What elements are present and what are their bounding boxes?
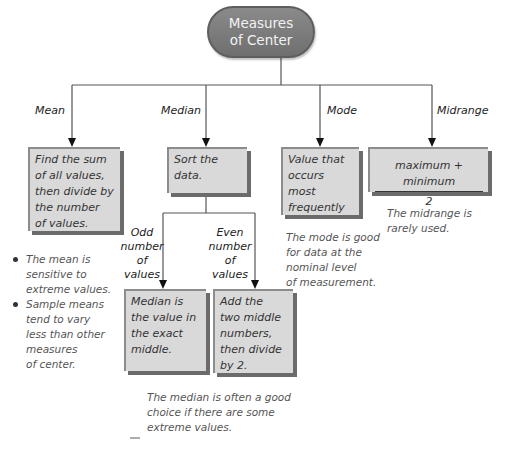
box-mean-definition: Find the sum of all values, then divide …: [28, 147, 120, 231]
note-line: less than other: [26, 327, 111, 342]
bullet-icon: [13, 257, 18, 262]
mean-note-item: The mean is sensitive to extreme values.: [10, 252, 111, 297]
even-box-line: numbers,: [220, 326, 288, 342]
even-label-line: of: [208, 254, 252, 268]
box-median-odd: Median is the value in the exact middle.: [124, 289, 206, 371]
median-box-line: data.: [174, 168, 242, 184]
odd-box-line: the value in: [131, 310, 201, 326]
root-line-2: of Center: [209, 32, 313, 49]
root-line-1: Measures: [209, 15, 313, 32]
mean-box-line: the number: [35, 200, 115, 216]
arrow-even-icon: [251, 280, 259, 289]
note-line: nominal level: [286, 260, 380, 275]
note-mode: The mode is good for data at the nominal…: [286, 230, 380, 290]
note-line: The mean is: [26, 252, 111, 267]
midrange-numerator: maximum + minimum: [375, 158, 483, 192]
note-line: Sample means: [26, 297, 111, 312]
mode-box-line: frequently: [288, 200, 354, 216]
even-box-line: by 2.: [220, 358, 288, 374]
label-median: Median: [161, 104, 201, 117]
even-box-line: Add the: [220, 294, 288, 310]
even-label-line: values: [208, 268, 252, 282]
note-midrange: The midrange is rarely used.: [387, 206, 472, 236]
mean-box-line: of all values,: [35, 168, 115, 184]
arrow-mean-icon: [68, 138, 76, 147]
mode-box-line: Value that: [288, 152, 354, 168]
mean-box-line: Find the sum: [35, 152, 115, 168]
note-line: rarely used.: [387, 221, 472, 236]
note-line: The midrange is: [387, 206, 472, 221]
label-mode: Mode: [327, 104, 357, 117]
note-line: of measurement.: [286, 275, 380, 290]
even-label-line: number: [208, 240, 252, 254]
note-line: for data at the: [286, 245, 380, 260]
note-line: The median is often a good: [147, 390, 291, 405]
root-node-measures-of-center: Measures of Center: [207, 6, 315, 58]
mean-box-line: of values.: [35, 216, 115, 232]
note-line: of center.: [26, 357, 111, 372]
mean-note-item: Sample means tend to vary less than othe…: [10, 297, 111, 372]
note-line: measures: [26, 342, 111, 357]
even-box-line: then divide: [220, 342, 288, 358]
mean-notes-list: The mean is sensitive to extreme values.…: [10, 252, 111, 372]
note-line: tend to vary: [26, 312, 111, 327]
note-line: extreme values.: [26, 282, 111, 297]
arrow-mode-icon: [316, 138, 324, 147]
arrow-median-icon: [202, 138, 210, 147]
note-line: extreme values.: [147, 420, 291, 435]
odd-box-line: the exact: [131, 326, 201, 342]
odd-label-line: number: [120, 240, 164, 254]
box-midrange-formula: maximum + minimum 2: [368, 147, 488, 192]
label-midrange: Midrange: [437, 104, 489, 117]
odd-label-line: of: [120, 254, 164, 268]
mode-box-line: occurs: [288, 168, 354, 184]
odd-label-line: values: [120, 268, 164, 282]
arrow-midrange-icon: [428, 138, 436, 147]
bullet-icon: [13, 302, 18, 307]
label-mean: Mean: [35, 104, 65, 117]
odd-label-line: Odd: [120, 226, 164, 240]
note-line: The mode is good: [286, 230, 380, 245]
label-even-number-of-values: Even number of values: [208, 226, 252, 282]
box-median-even: Add the two middle numbers, then divide …: [213, 289, 293, 373]
box-median-definition: Sort the data.: [167, 147, 247, 193]
even-box-line: two middle: [220, 310, 288, 326]
box-mode-definition: Value that occurs most frequently: [281, 147, 359, 215]
even-label-line: Even: [208, 226, 252, 240]
note-median: The median is often a good choice if the…: [147, 390, 291, 435]
median-box-line: Sort the: [174, 152, 242, 168]
mean-box-line: then divide by: [35, 184, 115, 200]
note-line: choice if there are some: [147, 405, 291, 420]
note-line: sensitive to: [26, 267, 111, 282]
label-odd-number-of-values: Odd number of values: [120, 226, 164, 282]
mode-box-line: most: [288, 184, 354, 200]
odd-box-line: Median is: [131, 294, 201, 310]
odd-box-line: middle.: [131, 342, 201, 358]
